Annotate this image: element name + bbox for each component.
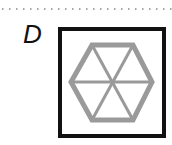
option-figure[interactable] bbox=[0, 0, 172, 145]
hexagon-icon bbox=[71, 45, 152, 120]
